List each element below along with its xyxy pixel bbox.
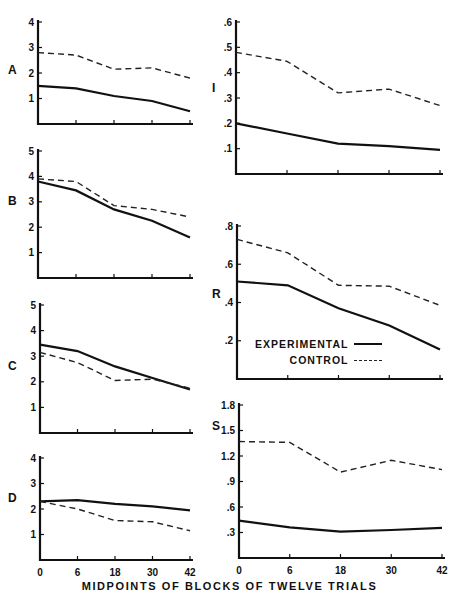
y-tick-label: .2 xyxy=(225,335,234,346)
experimental-line xyxy=(38,86,190,112)
y-tick-label: 5 xyxy=(30,300,36,311)
legend-label-control: CONTROL xyxy=(290,354,349,366)
y-tick-label: 3 xyxy=(30,478,36,489)
y-tick-label: 3 xyxy=(30,351,36,362)
panel-i: .1.2.3.4.5.6I xyxy=(212,17,443,175)
y-tick-label: 3 xyxy=(28,42,34,53)
panel-label: A xyxy=(8,63,17,77)
y-tick-label: .3 xyxy=(224,93,233,104)
y-tick-label: .8 xyxy=(225,221,234,232)
control-line xyxy=(38,53,190,79)
y-tick-label: 1 xyxy=(28,93,34,104)
panel-c: 12345C xyxy=(8,300,193,434)
y-tick-label: 1.2 xyxy=(221,451,235,462)
x-tick-label: 42 xyxy=(184,567,196,578)
y-tick-label: .2 xyxy=(224,118,233,129)
y-tick-label: 1.5 xyxy=(221,425,235,436)
x-tick-label: 18 xyxy=(109,567,121,578)
y-tick-label: 3 xyxy=(28,196,34,207)
control-line xyxy=(236,52,440,105)
y-tick-label: .5 xyxy=(224,42,233,53)
y-tick-label: 2 xyxy=(30,376,36,387)
dashed-line-icon xyxy=(354,360,382,361)
experimental-line xyxy=(40,500,190,510)
solid-line-icon xyxy=(354,343,382,345)
panel-label: I xyxy=(212,81,215,95)
x-tick-label: 30 xyxy=(147,567,159,578)
y-tick-label: .6 xyxy=(225,259,234,270)
y-tick-label: 1 xyxy=(30,529,36,540)
y-tick-label: .6 xyxy=(227,502,236,513)
control-line xyxy=(40,352,190,388)
y-tick-label: 4 xyxy=(30,325,36,336)
panel-label: S xyxy=(212,419,220,433)
panel-d: 123406183042D xyxy=(8,453,196,579)
panel-s: .3.6.91.21.51.806183042S xyxy=(212,400,448,577)
axes xyxy=(239,403,445,558)
y-tick-label: 4 xyxy=(28,171,34,182)
figure: 1234A12345B12345C123406183042D.1.2.3.4.5… xyxy=(0,0,459,605)
x-tick-label: 0 xyxy=(37,567,43,578)
y-tick-label: .3 xyxy=(227,527,236,538)
y-tick-label: .4 xyxy=(224,67,233,78)
legend-label-experimental: EXPERIMENTAL xyxy=(255,338,348,350)
x-tick-label: 30 xyxy=(386,565,398,576)
y-tick-label: 4 xyxy=(30,453,36,464)
y-tick-label: .9 xyxy=(227,476,236,487)
x-tick-label: 0 xyxy=(236,565,242,576)
legend-item-experimental: EXPERIMENTAL xyxy=(255,336,382,352)
panel-a: 1234A xyxy=(8,17,193,125)
control-line xyxy=(239,442,442,473)
y-tick-label: .4 xyxy=(225,297,234,308)
y-tick-label: 2 xyxy=(28,222,34,233)
y-tick-label: 2 xyxy=(30,504,36,515)
panel-label: C xyxy=(8,359,17,373)
experimental-line xyxy=(38,182,190,238)
y-tick-label: 2 xyxy=(28,68,34,79)
panel-label: B xyxy=(8,194,17,208)
legend-item-control: CONTROL xyxy=(255,352,382,368)
legend: EXPERIMENTAL CONTROL xyxy=(255,336,382,368)
panel-grid: 1234A12345B12345C123406183042D.1.2.3.4.5… xyxy=(0,0,459,605)
x-tick-label: 6 xyxy=(287,565,293,576)
x-tick-label: 6 xyxy=(75,567,81,578)
y-tick-label: .6 xyxy=(224,17,233,28)
y-tick-label: 1 xyxy=(28,247,34,258)
panel-b: 12345B xyxy=(8,146,193,279)
control-line xyxy=(40,501,190,530)
experimental-line xyxy=(239,521,442,532)
x-tick-label: 18 xyxy=(335,565,347,576)
panel-label: D xyxy=(8,491,17,505)
y-tick-label: 5 xyxy=(28,146,34,157)
x-tick-label: 42 xyxy=(436,565,448,576)
y-tick-label: 1 xyxy=(30,402,36,413)
control-line xyxy=(237,239,440,305)
panel-label: R xyxy=(212,287,221,301)
axes xyxy=(236,20,443,174)
y-tick-label: 4 xyxy=(28,17,34,28)
experimental-line xyxy=(236,123,440,150)
x-axis-title: MIDPOINTS OF BLOCKS OF TWELVE TRIALS xyxy=(0,580,459,592)
control-line xyxy=(38,179,190,217)
y-tick-label: .1 xyxy=(224,143,233,154)
axes xyxy=(38,149,193,278)
y-tick-label: 1.8 xyxy=(221,400,235,411)
